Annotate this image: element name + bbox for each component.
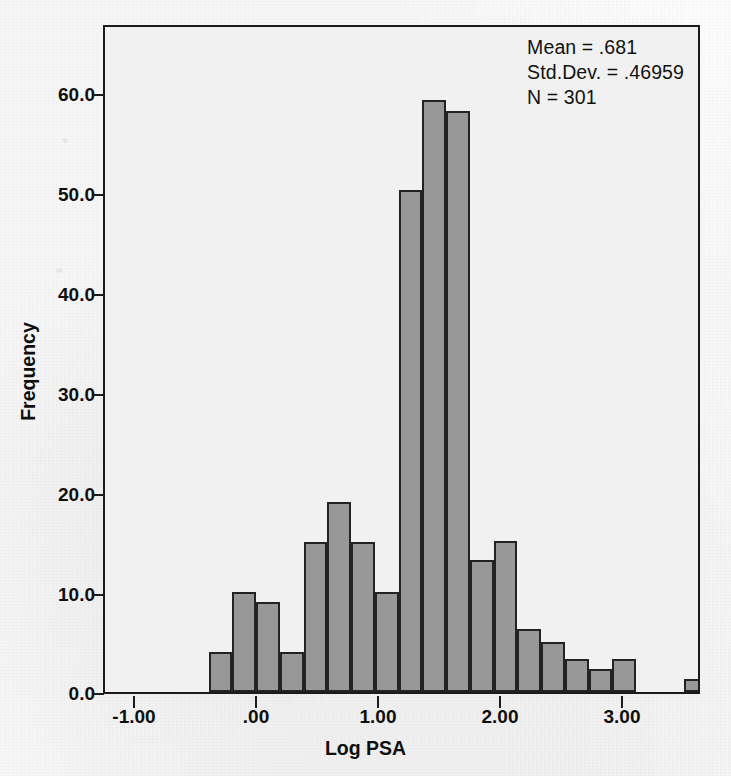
x-tick-label: 2.00: [482, 706, 519, 728]
histogram-bar: [399, 190, 423, 692]
histogram-bar: [589, 669, 613, 692]
x-tick-label: -1.00: [112, 706, 155, 728]
statistics-annotation: Mean = .681 Std.Dev. = .46959 N = 301: [527, 35, 684, 110]
sample-size-label: N = 301: [527, 85, 684, 110]
y-tick-label: 10.0: [5, 584, 95, 606]
y-axis: 60.0 50.0 40.0 30.0 20.0 10.0 0.0: [0, 0, 95, 776]
histogram-bar: [541, 642, 565, 692]
histogram-bar: [422, 100, 446, 692]
y-tick-label: 20.0: [5, 484, 95, 506]
histogram-bar: [565, 659, 589, 692]
histogram-bar: [327, 502, 351, 692]
histogram-bar: [351, 542, 375, 692]
y-axis-title: Frequency: [17, 302, 40, 442]
mean-label: Mean = .681: [527, 35, 684, 60]
histogram-bar: [470, 560, 494, 692]
bars-container: [105, 27, 698, 692]
y-tick-label: 50.0: [5, 184, 95, 206]
plot-area: Mean = .681 Std.Dev. = .46959 N = 301: [103, 25, 700, 694]
x-tick-label: 1.00: [360, 706, 397, 728]
histogram-bar: [494, 541, 518, 692]
histogram-chart: 60.0 50.0 40.0 30.0 20.0 10.0 0.0: [0, 0, 731, 776]
histogram-bar: [684, 679, 698, 692]
x-tick-label: .00: [243, 706, 269, 728]
histogram-bar: [304, 542, 328, 692]
x-tick-label: 3.00: [604, 706, 641, 728]
histogram-bar: [256, 602, 280, 692]
histogram-bar: [446, 111, 470, 692]
histogram-bar: [209, 652, 233, 692]
y-tick-label: 0.0: [5, 683, 95, 705]
histogram-bar: [517, 629, 541, 692]
histogram-bar: [612, 659, 636, 692]
y-tick-label: 60.0: [5, 84, 95, 106]
histogram-bar: [375, 592, 399, 692]
x-axis-title: Log PSA: [0, 737, 731, 760]
stddev-label: Std.Dev. = .46959: [527, 60, 684, 85]
histogram-bar: [232, 592, 256, 692]
histogram-bar: [280, 652, 304, 692]
